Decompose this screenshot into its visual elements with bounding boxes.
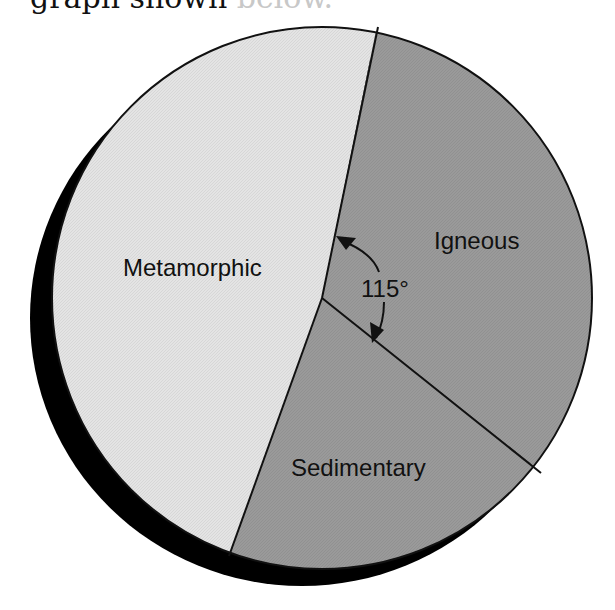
label-sedimentary: Sedimentary [291,454,426,481]
pie-chart: Metamorphic Igneous Sedimentary 115° [0,0,615,610]
label-igneous: Igneous [434,227,519,254]
label-angle: 115° [361,275,409,302]
label-metamorphic: Metamorphic [123,254,262,281]
